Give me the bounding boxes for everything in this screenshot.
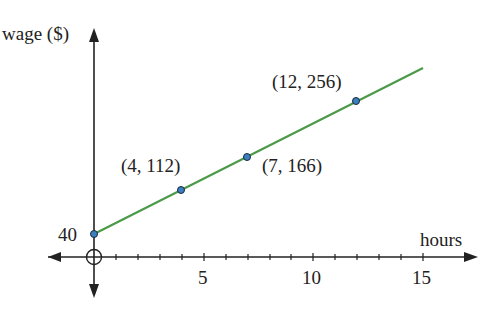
x-axis-left-arrow-icon	[48, 252, 61, 262]
y-axis-label: wage ($)	[2, 23, 69, 45]
point-label-12-256: (12, 256)	[272, 71, 342, 93]
point-label-4-112: (4, 112)	[121, 155, 180, 177]
chart: wage ($) hours 40 5 10 15 (4, 112) (7, 1…	[0, 0, 496, 323]
point-7-166	[244, 154, 251, 161]
x-tick-label-5: 5	[198, 267, 208, 288]
y-axis-down-arrow-icon	[89, 284, 99, 298]
point-12-256	[353, 98, 360, 105]
x-tick-label-10: 10	[302, 267, 321, 288]
x-axis-right-arrow-icon	[464, 252, 478, 262]
y-axis-up-arrow-icon	[89, 28, 99, 42]
y-intercept-label: 40	[58, 224, 77, 245]
wage-line	[94, 68, 423, 234]
point-4-112	[178, 187, 185, 194]
x-tick-label-15: 15	[412, 267, 431, 288]
point-0-40	[91, 231, 98, 238]
x-axis-label: hours	[420, 229, 462, 250]
point-label-7-166: (7, 166)	[262, 155, 322, 177]
